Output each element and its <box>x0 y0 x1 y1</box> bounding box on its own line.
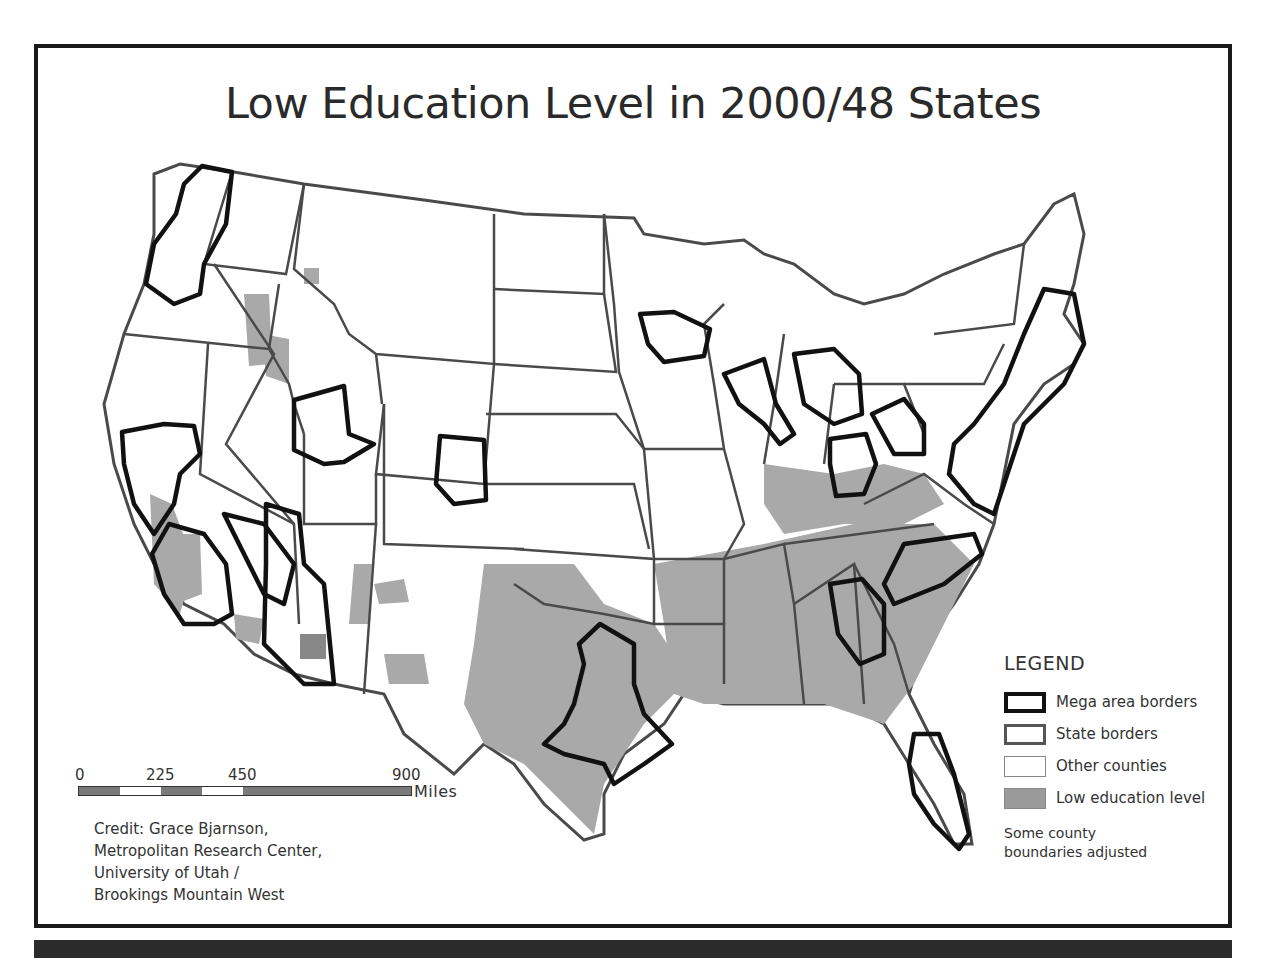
scale-tick: 225 <box>146 766 175 784</box>
map-frame: Low Education Level in 2000/48 States <box>34 44 1232 928</box>
credit-line: Credit: Grace Bjarnson, <box>94 818 322 840</box>
legend-label: Other counties <box>1056 757 1167 775</box>
legend-item-low: Low education level <box>1004 782 1205 814</box>
scale-unit: Miles <box>414 782 457 801</box>
scale-tick: 0 <box>75 766 85 784</box>
credit-line: University of Utah / <box>94 862 322 884</box>
legend-label: State borders <box>1056 725 1158 743</box>
legend-label: Low education level <box>1056 789 1205 807</box>
mega-border-swatch <box>1004 692 1046 713</box>
legend: LEGEND Mega area borders State borders O… <box>1004 652 1205 862</box>
scale-bar-graphic <box>78 786 412 796</box>
credit-line: Brookings Mountain West <box>94 884 322 906</box>
legend-note: Some county boundaries adjusted <box>1004 824 1174 862</box>
other-counties-swatch <box>1004 756 1046 777</box>
scale-tick: 450 <box>228 766 257 784</box>
legend-item-mega: Mega area borders <box>1004 686 1205 718</box>
legend-item-state: State borders <box>1004 718 1205 750</box>
state-border-swatch <box>1004 724 1046 745</box>
scale-bar: 0 225 450 900 Miles <box>78 766 412 796</box>
credit-line: Metropolitan Research Center, <box>94 840 322 862</box>
scale-labels: 0 225 450 900 <box>78 766 412 786</box>
bottom-strip <box>34 940 1232 958</box>
low-education-swatch <box>1004 788 1046 809</box>
credit: Credit: Grace Bjarnson, Metropolitan Res… <box>94 818 322 906</box>
legend-label: Mega area borders <box>1056 693 1197 711</box>
legend-title: LEGEND <box>1004 652 1205 674</box>
legend-item-other: Other counties <box>1004 750 1205 782</box>
